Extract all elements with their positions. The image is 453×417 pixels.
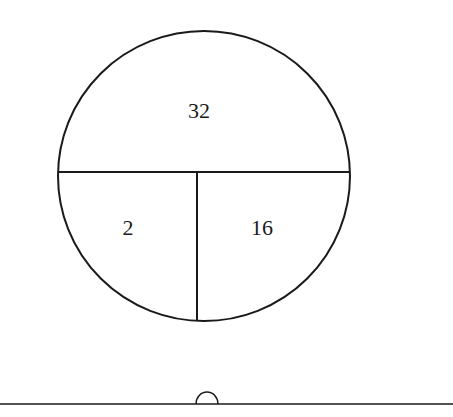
semicircle-mark xyxy=(196,392,218,404)
circle-outline xyxy=(58,31,350,321)
region-top-label: 32 xyxy=(188,98,210,123)
diagram-canvas: 32 2 16 xyxy=(0,0,453,417)
region-bottom-right-label: 16 xyxy=(251,215,273,240)
region-bottom-left-label: 2 xyxy=(123,215,134,240)
